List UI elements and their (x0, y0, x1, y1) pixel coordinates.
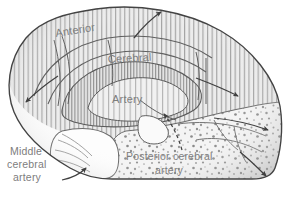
label-middle-cerebral-artery-line3: artery (13, 171, 42, 183)
label-middle-cerebral-artery-line2: cerebral (7, 158, 47, 170)
label-cerebral: Cerebral (107, 51, 151, 65)
label-artery: Artery (112, 93, 143, 105)
label-posterior-cerebral-artery-line2: artery (155, 164, 184, 176)
label-middle-cerebral-artery-line1: Middle (10, 145, 42, 157)
label-posterior-cerebral-artery-line1: Posterior cerebral (126, 150, 212, 162)
cerebral-artery-diagram: Anterior Cerebral Artery Middle cerebral… (0, 0, 287, 198)
